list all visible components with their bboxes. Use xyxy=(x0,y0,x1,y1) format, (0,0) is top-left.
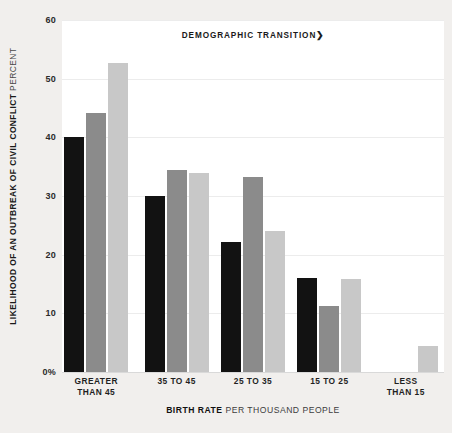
bar xyxy=(145,196,165,372)
bar xyxy=(167,170,187,372)
annotation-label: DEMOGRAPHIC TRANSITION xyxy=(182,31,316,40)
x-axis-title: BIRTH RATE PER THOUSAND PEOPLE xyxy=(62,405,444,415)
y-axis-tick-label: 40 xyxy=(4,132,56,142)
bar xyxy=(64,137,84,372)
chart-container: LIKELIHOOD OF AN OUTBREAK OF CIVIL CONFL… xyxy=(0,0,452,433)
y-axis-tick-label: 20 xyxy=(4,250,56,260)
bar-group xyxy=(221,20,285,372)
y-axis-tick-label: 60 xyxy=(4,15,56,25)
plot-area: DEMOGRAPHIC TRANSITION❯ xyxy=(62,20,444,372)
bar-group xyxy=(374,20,438,372)
bar xyxy=(221,242,241,372)
bar xyxy=(341,279,361,372)
bar xyxy=(319,306,339,372)
x-axis-tick-labels: GREATERTHAN 4535 TO 4525 TO 3515 TO 25LE… xyxy=(62,376,444,406)
x-axis-tick-label: GREATERTHAN 45 xyxy=(56,376,136,397)
bar xyxy=(265,231,285,372)
y-axis-tick-label: 0% xyxy=(4,367,56,377)
bar xyxy=(108,63,128,372)
x-axis-title-unit: PER THOUSAND PEOPLE xyxy=(225,405,339,415)
y-axis-tick-label: 30 xyxy=(4,191,56,201)
bar xyxy=(418,346,438,372)
y-axis-tick-label: 50 xyxy=(4,74,56,84)
y-axis-tick-labels: 6050403020100% xyxy=(0,20,56,372)
bar xyxy=(297,278,317,372)
x-axis-tick-label: LESSTHAN 15 xyxy=(366,376,446,397)
bar xyxy=(86,113,106,372)
bar-group xyxy=(64,20,128,372)
x-axis-title-main: BIRTH RATE xyxy=(166,405,222,415)
arrow-right-icon: ❯ xyxy=(316,30,324,40)
gridline xyxy=(62,372,444,373)
x-axis-tick-label: 35 TO 45 xyxy=(137,376,217,387)
bar xyxy=(189,173,209,372)
bar-group xyxy=(145,20,209,372)
x-axis-tick-label: 25 TO 35 xyxy=(213,376,293,387)
bars-layer xyxy=(62,20,444,372)
bar-group xyxy=(297,20,361,372)
demographic-transition-annotation: DEMOGRAPHIC TRANSITION❯ xyxy=(62,30,444,40)
y-axis-tick-label: 10 xyxy=(4,308,56,318)
x-axis-tick-label: 15 TO 25 xyxy=(289,376,369,387)
bar xyxy=(243,177,263,372)
